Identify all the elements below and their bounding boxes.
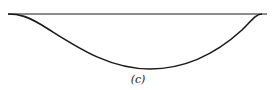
figure-label: (c) [0, 73, 274, 86]
deflection-curve [8, 14, 262, 69]
